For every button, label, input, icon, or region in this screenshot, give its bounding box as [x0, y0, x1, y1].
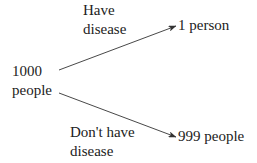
root-count: 1000: [12, 62, 52, 81]
leaf-node-dont-have-disease: 999 people: [178, 127, 244, 146]
leaf-node-have-disease: 1 person: [178, 16, 229, 35]
probability-tree-diagram: 1000 people Have disease Don't have dise…: [0, 0, 257, 163]
edge-label-line: Don't have: [70, 123, 135, 142]
edge-label-line: Have: [83, 1, 126, 20]
root-unit: people: [12, 81, 52, 100]
edge-label-dont-have-disease: Don't have disease: [70, 123, 135, 161]
edge-label-have-disease: Have disease: [83, 1, 126, 39]
edge-label-line: disease: [70, 142, 135, 161]
edge-label-line: disease: [83, 20, 126, 39]
root-node-label: 1000 people: [12, 62, 52, 100]
